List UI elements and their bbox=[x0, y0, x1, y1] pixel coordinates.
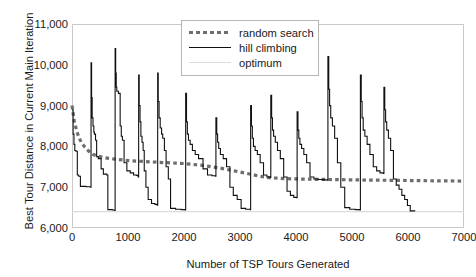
legend-label-random-search: random search bbox=[239, 27, 314, 39]
legend-item-optimum: optimum bbox=[188, 55, 312, 70]
y-axis-tick-labels: 6,0007,0008,0009,00010,00011,000 bbox=[0, 0, 68, 277]
legend-key-dotted-icon bbox=[188, 27, 232, 39]
legend-label-hill-climbing: hill climbing bbox=[239, 42, 297, 54]
legend-item-random-search: random search bbox=[188, 25, 312, 40]
x-tick-label: 4000 bbox=[284, 231, 309, 243]
y-tick-label: 7,000 bbox=[8, 181, 68, 193]
y-tick-label: 11,000 bbox=[8, 18, 68, 30]
legend-key-optimum-icon bbox=[188, 57, 232, 69]
legend-key-solid-icon bbox=[188, 42, 232, 54]
y-tick-label: 8,000 bbox=[8, 140, 68, 152]
plot-area: random search hill climbing optimum bbox=[72, 24, 464, 228]
x-tick-label: 1000 bbox=[116, 231, 141, 243]
x-tick-label: 7000 bbox=[452, 231, 476, 243]
y-tick-label: 9,000 bbox=[8, 100, 68, 112]
y-tick-label: 10,000 bbox=[8, 59, 68, 71]
x-axis-label: Number of TSP Tours Generated bbox=[72, 258, 464, 270]
x-tick-label: 3000 bbox=[228, 231, 253, 243]
x-tick-label: 6000 bbox=[396, 231, 421, 243]
legend-label-optimum: optimum bbox=[239, 57, 282, 69]
x-tick-label: 0 bbox=[69, 231, 75, 243]
legend-item-hill-climbing: hill climbing bbox=[188, 40, 312, 55]
x-tick-label: 5000 bbox=[340, 231, 365, 243]
y-tick-label: 6,000 bbox=[8, 222, 68, 234]
series-random-search bbox=[72, 106, 464, 181]
chart-legend: random search hill climbing optimum bbox=[181, 20, 319, 76]
x-tick-label: 2000 bbox=[172, 231, 197, 243]
